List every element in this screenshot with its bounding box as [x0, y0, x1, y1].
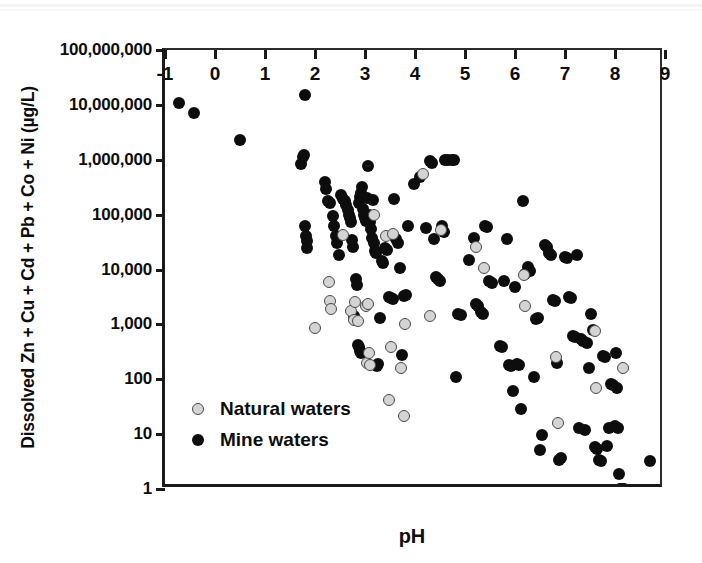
data-point-mine — [426, 157, 438, 169]
data-point-mine — [377, 257, 389, 269]
y-tick-label: 1,000,000 — [78, 150, 152, 170]
data-point-mine — [532, 312, 544, 324]
data-point-mine — [463, 254, 475, 266]
chart-legend: Natural watersMine waters — [192, 398, 351, 451]
y-axis-title-text: Dissolved Zn + Cu + Cd + Pb + Co + Ni (µ… — [18, 86, 39, 449]
data-point-mine — [549, 295, 561, 307]
data-point-natural — [325, 303, 337, 315]
data-point-natural — [417, 168, 429, 180]
data-point-mine — [455, 309, 467, 321]
data-point-mine — [555, 452, 567, 464]
data-point-natural — [309, 322, 321, 334]
data-point-natural — [435, 224, 447, 236]
data-point-natural — [589, 325, 601, 337]
x-tick-label: -1 — [157, 63, 174, 85]
data-point-mine — [324, 197, 336, 209]
data-point-mine — [450, 371, 462, 383]
data-point-mine — [513, 359, 525, 371]
y-tick-label: 10,000 — [101, 260, 152, 280]
data-point-natural — [363, 347, 375, 359]
data-point-mine — [173, 97, 185, 109]
legend-entry-natural: Natural waters — [192, 398, 351, 420]
x-tick-mark — [314, 50, 317, 59]
scan-artifact-line-secondary — [0, 9, 702, 11]
y-tick-mark — [156, 214, 165, 217]
data-point-natural — [395, 362, 407, 374]
data-point-natural — [478, 262, 490, 274]
x-tick-label: 9 — [660, 63, 671, 85]
data-point-mine — [362, 160, 374, 172]
data-point-mine — [571, 249, 583, 261]
data-point-mine — [320, 183, 332, 195]
data-point-mine — [501, 233, 513, 245]
data-point-natural — [364, 359, 376, 371]
x-tick-mark — [564, 50, 567, 59]
x-tick-label: 5 — [460, 63, 471, 85]
figure-scatter-plot: Dissolved Zn + Cu + Cd + Pb + Co + Ni (µ… — [0, 0, 702, 563]
data-point-mine — [618, 483, 630, 484]
y-tick-label: 100,000 — [92, 205, 152, 225]
data-point-mine — [610, 347, 622, 359]
data-point-mine — [448, 154, 460, 166]
data-point-mine — [496, 341, 508, 353]
data-point-mine — [536, 429, 548, 441]
data-point-natural — [617, 362, 629, 374]
legend-label: Natural waters — [220, 398, 351, 420]
data-point-mine — [581, 337, 593, 349]
x-tick-mark — [514, 50, 517, 59]
legend-marker-natural-icon — [192, 403, 204, 415]
data-point-mine — [595, 455, 607, 467]
data-point-mine — [396, 349, 408, 361]
y-tick-mark — [156, 488, 165, 491]
data-point-mine — [507, 385, 519, 397]
data-point-natural — [399, 318, 411, 330]
data-point-mine — [388, 193, 400, 205]
data-point-mine — [434, 275, 446, 287]
x-tick-label: 6 — [510, 63, 521, 85]
data-point-natural — [398, 410, 410, 422]
y-tick-label: 10,000,000 — [69, 95, 152, 115]
data-point-mine — [611, 382, 623, 394]
data-point-natural — [337, 229, 349, 241]
data-point-natural — [518, 269, 530, 281]
data-point-mine — [351, 279, 363, 291]
y-tick-label: 10 — [133, 424, 152, 444]
data-point-mine — [367, 194, 379, 206]
x-tick-mark — [164, 50, 167, 59]
legend-label: Mine waters — [220, 429, 329, 451]
x-tick-mark — [214, 50, 217, 59]
data-point-mine — [381, 244, 393, 256]
legend-entry-mine: Mine waters — [192, 429, 351, 451]
x-tick-mark — [264, 50, 267, 59]
x-tick-mark — [664, 50, 667, 59]
data-point-mine — [420, 222, 432, 234]
x-tick-label: 4 — [410, 63, 421, 85]
data-point-natural — [387, 228, 399, 240]
data-point-mine — [612, 422, 624, 434]
x-tick-label: 8 — [610, 63, 621, 85]
data-point-natural — [519, 300, 531, 312]
data-point-mine — [579, 424, 591, 436]
data-point-mine — [613, 468, 625, 480]
data-point-mine — [565, 292, 577, 304]
data-point-mine — [345, 216, 357, 228]
data-point-mine — [585, 308, 597, 320]
data-point-natural — [383, 394, 395, 406]
data-point-mine — [486, 277, 498, 289]
data-point-mine — [298, 149, 310, 161]
data-point-natural — [368, 209, 380, 221]
y-tick-mark — [156, 269, 165, 272]
data-point-natural — [550, 351, 562, 363]
data-point-natural — [590, 382, 602, 394]
data-point-natural — [470, 241, 482, 253]
x-axis-title: pH — [162, 525, 662, 548]
y-tick-label: 100,000,000 — [60, 40, 152, 60]
data-point-mine — [601, 440, 613, 452]
data-point-mine — [517, 195, 529, 207]
data-point-mine — [545, 249, 557, 261]
data-point-mine — [301, 242, 313, 254]
data-point-mine — [374, 312, 386, 324]
x-tick-label: 0 — [210, 63, 221, 85]
data-point-mine — [234, 134, 246, 146]
data-point-mine — [528, 371, 540, 383]
